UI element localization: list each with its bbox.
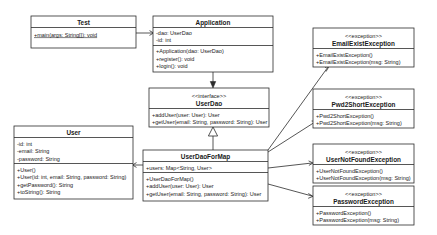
class-stereotype-exception: <<exception>> <box>345 149 382 155</box>
class-title-userdao: UserDao <box>196 100 222 107</box>
class-stereotype-exception: <<exception>> <box>345 33 382 39</box>
class-box-userdaoformap[interactable]: UserDaoForMap +users: Map<String, User> … <box>143 150 268 201</box>
class-box-passwordexception[interactable]: <<exception>> PasswordException +Passwor… <box>313 186 414 225</box>
class-member: +main(args: String[]): void <box>34 32 97 38</box>
class-member: +addUser(user: User): User <box>152 112 220 118</box>
connector-userdaoformap-to-userdao <box>208 127 217 150</box>
class-stereotype-interface: <<interface>> <box>192 93 227 99</box>
class-member: +login(): void <box>156 63 188 69</box>
class-member: +Pwd2ShortException(msg: String) <box>316 120 402 126</box>
class-member: +UserNotFoundException() <box>316 168 383 174</box>
class-member: -dao: UserDao <box>156 30 192 36</box>
class-box-pwd2shortexception[interactable]: <<exception>> Pwd2ShortException +Pwd2Sh… <box>313 89 414 128</box>
class-member: +getPassword(): String <box>17 182 73 188</box>
class-member: +Application(dao: UserDao) <box>156 48 224 54</box>
class-member: +PasswordException() <box>316 210 371 216</box>
connector-userdaoformap-to-usernotfoundexception <box>268 161 313 168</box>
class-box-user[interactable]: User -id: int -email: String -password: … <box>14 126 133 199</box>
class-box-test[interactable]: Test +main(args: String[]): void <box>31 16 136 48</box>
class-member: +register(): void <box>156 56 194 62</box>
class-member: +User() <box>17 167 36 173</box>
class-member: +EmailExistException() <box>316 52 373 58</box>
class-box-emailexistexception[interactable]: <<exception>> EmailExistException +Email… <box>313 28 414 67</box>
class-member: -id: int <box>17 141 32 147</box>
connector-application-to-userdao <box>210 72 215 88</box>
uml-class-diagram: Test +main(args: String[]): void Applica… <box>0 0 437 235</box>
class-stereotype-exception: <<exception>> <box>345 191 382 197</box>
class-member: +addUser(user: User): User <box>146 183 214 189</box>
class-member: -id: int <box>156 37 171 43</box>
class-stereotype-exception: <<exception>> <box>345 94 382 100</box>
class-member: +User(id: int, email: String, password: … <box>17 174 126 180</box>
class-box-usernotfoundexception[interactable]: <<exception>> UserNotFoundException +Use… <box>313 144 414 183</box>
class-title-user: User <box>66 129 81 136</box>
class-member: +UserDaoForMap() <box>146 176 194 182</box>
class-member: +PasswordException(msg: String) <box>316 217 399 223</box>
class-title-pwd2shortexception: Pwd2ShortException <box>332 101 396 109</box>
connector-test-to-application <box>136 31 154 36</box>
class-title-emailexistexception: EmailExistException <box>332 40 395 48</box>
class-box-application[interactable]: Application -dao: UserDao -id: int +Appl… <box>153 16 273 72</box>
class-title-application: Application <box>196 19 231 27</box>
class-member: -password: String <box>17 156 60 162</box>
class-member: +UserNotFoundException(msg: String) <box>316 175 411 181</box>
class-title-test: Test <box>77 19 91 26</box>
class-member: +getUser(email: String, password: String… <box>146 191 262 197</box>
connector-userdaoformap-to-user <box>133 163 144 168</box>
class-title-passwordexception: PasswordException <box>333 198 394 206</box>
class-box-userdao[interactable]: <<interface>> UserDao +addUser(user: Use… <box>149 88 269 127</box>
connector-userdaoformap-to-passwordexception <box>268 184 313 198</box>
class-title-usernotfoundexception: UserNotFoundException <box>326 156 401 164</box>
class-member: -email: String <box>17 148 49 154</box>
connector-userdaoformap-to-pwd2shortexception <box>268 121 317 152</box>
class-member: +EmailExistException(msg: String) <box>316 59 401 65</box>
class-member: +users: Map<String, User> <box>146 165 212 171</box>
class-title-userdaoformap: UserDaoForMap <box>181 153 230 161</box>
class-member: +getUser(email: String, password: String… <box>152 119 268 125</box>
class-member: +Pwd2ShortException() <box>316 113 374 119</box>
class-member: +toString(): String <box>17 189 60 195</box>
